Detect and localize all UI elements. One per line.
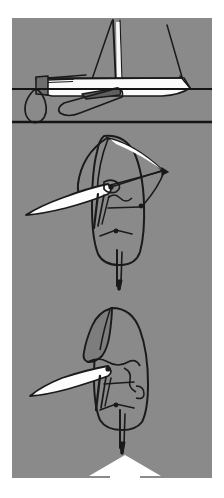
tiller-joint-2	[114, 403, 119, 408]
crew-hand-2	[105, 366, 110, 371]
figure-root: Three hand-drawn views of a sailing ding…	[0, 0, 224, 498]
transom	[36, 76, 48, 95]
crew-hand	[108, 184, 113, 189]
centreboard-down-edge	[121, 252, 122, 282]
mainsheet-lower	[108, 207, 140, 208]
centreboard-down-edge-2	[124, 414, 125, 444]
transom-rail	[48, 79, 74, 80]
tiller-joint	[114, 229, 119, 234]
sailing-diagram-svg	[12, 18, 212, 478]
illustration-panel: Three hand-drawn views of a sailing ding…	[12, 18, 212, 478]
mainsheet-block	[139, 204, 144, 209]
